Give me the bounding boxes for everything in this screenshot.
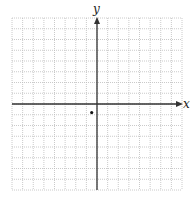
- y-axis-label: y: [93, 3, 100, 15]
- axes: [12, 17, 183, 190]
- plotted-point: [90, 111, 93, 114]
- plotted-points: [90, 111, 93, 114]
- x-axis-label: x: [183, 98, 190, 110]
- coordinate-plane: [0, 0, 192, 197]
